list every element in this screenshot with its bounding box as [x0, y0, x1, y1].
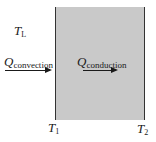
conduction-heat-label: Qconduction — [77, 55, 126, 70]
convection-arrow-icon — [5, 70, 50, 71]
fluid-temperature-label: TL — [14, 24, 26, 39]
conduction-arrow-icon — [83, 70, 116, 71]
surface-temperature-t1-label: T1 — [48, 121, 59, 136]
surface-temperature-t2-label: T2 — [137, 122, 148, 137]
